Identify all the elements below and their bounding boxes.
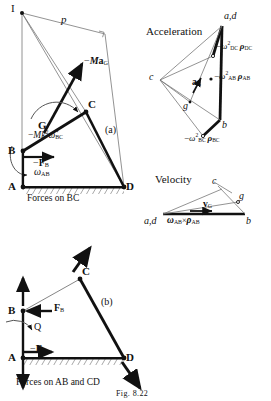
couple-q-label: Q bbox=[34, 322, 41, 332]
inertia-couple-label: −Mk2ω̇BC bbox=[28, 131, 63, 141]
accel-point-label-g: g bbox=[183, 101, 188, 111]
link-bc-b-thin bbox=[23, 279, 80, 311]
accel-ab-term-label: −ω2AB ρAB bbox=[214, 72, 250, 81]
point-label-d-b: D bbox=[126, 352, 134, 363]
inertia-force-vector bbox=[44, 64, 82, 133]
accel-node-ab bbox=[209, 77, 212, 80]
velocity-thin-ad-g bbox=[163, 202, 238, 214]
ground-hatch-b bbox=[23, 359, 124, 365]
force-fb-label-b: FB bbox=[54, 303, 64, 313]
panel-a-forces-on-bc bbox=[10, 11, 126, 194]
point-label-g-a: G bbox=[38, 120, 47, 131]
figure-8-22: I p −MaG −Mk2ω̇BC B A D C G −FB ωAB (a) … bbox=[0, 0, 271, 401]
panel-acceleration-diagram bbox=[160, 26, 222, 138]
point-label-a-b: A bbox=[8, 352, 16, 363]
joint-c bbox=[84, 110, 89, 115]
point-label-c-a: C bbox=[88, 99, 96, 110]
distance-label-p: p bbox=[61, 14, 67, 25]
joint-b bbox=[21, 149, 26, 154]
force-fb-neg-label-b: −FB bbox=[30, 344, 46, 354]
right-angle-mark bbox=[99, 31, 104, 37]
accel-bc-term-label: −ω2BC ρBC bbox=[184, 134, 220, 143]
point-label-i: I bbox=[11, 3, 15, 14]
accel-dc-term-label: −ω2DC ρDC bbox=[216, 42, 252, 51]
force-arrow-at-d bbox=[122, 362, 140, 388]
accel-thin-c-to-dcend bbox=[160, 56, 213, 80]
accel-node-g bbox=[189, 101, 192, 104]
velocity-point-label-b: b bbox=[246, 216, 251, 226]
accel-point-label-c: c bbox=[149, 72, 153, 82]
acceleration-title: Acceleration bbox=[146, 26, 202, 37]
link-cd-b bbox=[80, 279, 124, 358]
velocity-point-label-c: c bbox=[212, 176, 216, 186]
velocity-omega-rho-label: ωAB×ρAB bbox=[167, 216, 200, 226]
accel-point-label-ad: a,d bbox=[224, 11, 237, 21]
joint-a-panelb bbox=[21, 356, 26, 361]
point-label-b-a: B bbox=[8, 145, 15, 156]
panel-b-title: Forces on AB and CD bbox=[16, 378, 100, 388]
point-label-d-a: D bbox=[126, 181, 134, 192]
velocity-point-label-ad: a,d bbox=[144, 216, 157, 226]
panel-b-tag: (b) bbox=[101, 297, 113, 307]
joint-b-panelb bbox=[21, 309, 26, 314]
omega-ab-label-a: ωAB bbox=[34, 167, 50, 177]
inertia-force-label: −MaG bbox=[84, 56, 108, 66]
accel-node-dc bbox=[211, 54, 214, 57]
accel-point-label-b: b bbox=[222, 120, 227, 130]
point-label-a-a: A bbox=[8, 181, 16, 192]
panel-b-forces-on-ab-cd bbox=[6, 248, 140, 388]
couple-q-arc bbox=[6, 320, 32, 330]
velocity-title: Velocity bbox=[155, 174, 192, 185]
joint-i bbox=[20, 11, 24, 15]
point-label-c-b: C bbox=[82, 266, 90, 277]
figure-caption: Fig. 8.22 bbox=[116, 390, 148, 398]
panel-a-tag: (a) bbox=[105, 125, 116, 135]
accel-thin-c-to-bcend bbox=[160, 80, 203, 136]
velocity-vg-label: vG bbox=[203, 200, 212, 210]
velocity-point-label-g: g bbox=[239, 191, 244, 201]
point-label-b-b: B bbox=[8, 305, 15, 316]
joint-c-panelb bbox=[78, 277, 83, 282]
accel-ag-label: aG bbox=[192, 78, 201, 88]
panel-a-title: Forces on BC bbox=[27, 194, 79, 204]
construction-line-i-to-c bbox=[22, 13, 86, 112]
accel-thin-c-to-b bbox=[160, 80, 220, 120]
